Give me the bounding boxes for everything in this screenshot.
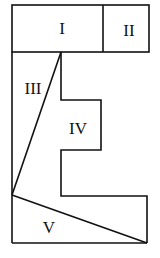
- diagonal-III: [12, 52, 61, 195]
- label-V: V: [43, 218, 56, 237]
- diagonal-V: [12, 195, 147, 243]
- label-I: I: [59, 19, 65, 38]
- diagram-svg: I II III IV V: [0, 0, 160, 258]
- dissection-diagram: I II III IV V: [0, 0, 160, 258]
- label-III: III: [25, 79, 42, 98]
- label-II: II: [123, 21, 135, 40]
- piece-IV-boundary: [61, 52, 147, 243]
- label-IV: IV: [69, 119, 88, 138]
